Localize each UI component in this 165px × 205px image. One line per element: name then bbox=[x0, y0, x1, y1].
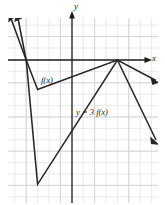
graph-canvas bbox=[0, 0, 165, 205]
y-axis-label: y bbox=[74, 2, 78, 11]
function-graph-figure: y x f(x) y = 3 f(x) bbox=[0, 0, 165, 205]
curve-label-3fx: y = 3 f(x) bbox=[76, 108, 108, 117]
x-axis-label: x bbox=[152, 54, 156, 63]
curve-label-fx: f(x) bbox=[41, 76, 53, 85]
